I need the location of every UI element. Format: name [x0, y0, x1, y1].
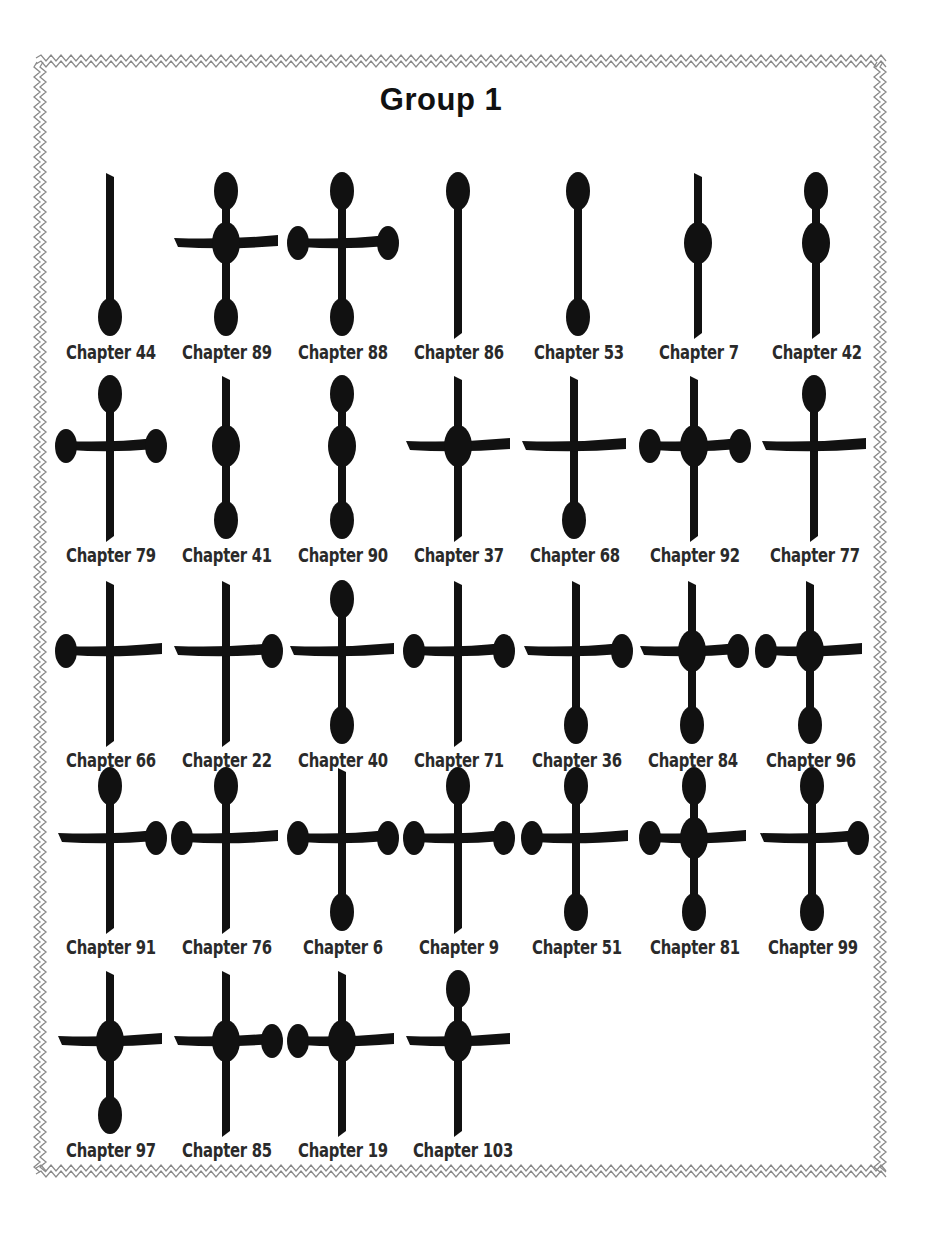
chapter-label: Chapter 88 [297, 341, 389, 363]
chapter-glyph-card: Chapter 51 [518, 760, 636, 970]
chapter-label: Chapter 44 [65, 341, 157, 363]
cross-glyph-icon [520, 165, 638, 345]
cross-glyph-icon [284, 165, 402, 345]
chapter-glyph-card: Chapter 66 [52, 573, 170, 783]
chapter-glyph-card: Chapter 68 [516, 368, 634, 578]
cross-glyph-icon [52, 760, 170, 940]
chapter-glyph-card: Chapter 81 [636, 760, 754, 970]
cross-glyph-icon [168, 760, 286, 940]
chapter-glyph-card: Chapter 42 [758, 165, 876, 375]
chapter-glyph-card: Chapter 19 [284, 963, 402, 1173]
chapter-label: Chapter 81 [649, 936, 741, 958]
cross-glyph-icon [284, 573, 402, 753]
cross-glyph-icon [754, 760, 872, 940]
chapter-glyph-card: Chapter 7 [640, 165, 758, 375]
chapter-label: Chapter 90 [297, 544, 389, 566]
chapter-glyph-card: Chapter 88 [284, 165, 402, 375]
chapter-label: Chapter 68 [529, 544, 621, 566]
chapter-label: Chapter 53 [533, 341, 625, 363]
cross-glyph-icon [400, 165, 518, 345]
cross-glyph-icon [168, 165, 286, 345]
chapter-label: Chapter 51 [531, 936, 623, 958]
cross-glyph-icon [52, 368, 170, 548]
cross-glyph-icon [400, 963, 518, 1143]
cross-glyph-icon [284, 963, 402, 1143]
chapter-glyph-card: Chapter 92 [636, 368, 754, 578]
cross-glyph-icon [516, 368, 634, 548]
cross-glyph-icon [52, 165, 170, 345]
chapter-label: Chapter 19 [297, 1139, 389, 1161]
chapter-label: Chapter 86 [413, 341, 505, 363]
cross-glyph-icon [400, 760, 518, 940]
cross-glyph-icon [518, 573, 636, 753]
chapter-glyph-card: Chapter 103 [400, 963, 518, 1173]
chapter-glyph-card: Chapter 97 [52, 963, 170, 1173]
chapter-glyph-card: Chapter 44 [52, 165, 170, 375]
cross-glyph-icon [636, 760, 754, 940]
chapter-label: Chapter 91 [65, 936, 157, 958]
cross-glyph-icon [752, 573, 870, 753]
chapter-glyph-card: Chapter 36 [518, 573, 636, 783]
chapter-label: Chapter 79 [65, 544, 157, 566]
chapter-glyph-card: Chapter 89 [168, 165, 286, 375]
cross-glyph-icon [168, 963, 286, 1143]
chapter-glyph-card: Chapter 77 [756, 368, 874, 578]
cross-glyph-icon [168, 573, 286, 753]
chapter-glyph-card: Chapter 6 [284, 760, 402, 970]
cross-glyph-icon [636, 368, 754, 548]
chapter-label: Chapter 77 [769, 544, 861, 566]
chapter-glyph-card: Chapter 90 [284, 368, 402, 578]
chapter-label: Chapter 92 [649, 544, 741, 566]
chapter-glyph-card: Chapter 76 [168, 760, 286, 970]
chapter-label: Chapter 41 [181, 544, 273, 566]
cross-glyph-icon [400, 368, 518, 548]
chapter-glyph-card: Chapter 91 [52, 760, 170, 970]
chapter-glyph-card: Chapter 9 [400, 760, 518, 970]
chapter-label: Chapter 6 [297, 936, 389, 958]
chapter-glyph-card: Chapter 53 [520, 165, 638, 375]
chapter-glyph-card: Chapter 79 [52, 368, 170, 578]
cross-glyph-icon [640, 165, 758, 345]
chapter-glyph-card: Chapter 99 [754, 760, 872, 970]
chapter-label: Chapter 76 [181, 936, 273, 958]
chapter-glyph-card: Chapter 84 [634, 573, 752, 783]
chapter-label: Chapter 42 [771, 341, 863, 363]
cross-glyph-icon [756, 368, 874, 548]
chapter-label: Chapter 103 [413, 1139, 505, 1161]
cross-glyph-icon [400, 573, 518, 753]
chapter-glyph-card: Chapter 96 [752, 573, 870, 783]
chapter-label: Chapter 89 [181, 341, 273, 363]
chapter-glyph-card: Chapter 41 [168, 368, 286, 578]
chapter-glyph-card: Chapter 40 [284, 573, 402, 783]
cross-glyph-icon [168, 368, 286, 548]
chapter-glyph-card: Chapter 85 [168, 963, 286, 1173]
chapter-glyph-card: Chapter 71 [400, 573, 518, 783]
cross-glyph-icon [284, 760, 402, 940]
chapter-glyph-card: Chapter 86 [400, 165, 518, 375]
cross-glyph-icon [284, 368, 402, 548]
cross-glyph-icon [52, 573, 170, 753]
cross-glyph-icon [52, 963, 170, 1143]
chapter-label: Chapter 99 [767, 936, 859, 958]
cross-glyph-icon [634, 573, 752, 753]
chapter-label: Chapter 85 [181, 1139, 273, 1161]
chapter-glyph-card: Chapter 37 [400, 368, 518, 578]
chapter-label: Chapter 37 [413, 544, 505, 566]
cross-glyph-icon [758, 165, 876, 345]
cross-glyph-icon [518, 760, 636, 940]
chapter-label: Chapter 97 [65, 1139, 157, 1161]
chapter-label: Chapter 9 [413, 936, 505, 958]
chapter-glyph-card: Chapter 22 [168, 573, 286, 783]
chapter-label: Chapter 7 [653, 341, 745, 363]
chapter-glyph-grid: Chapter 44Chapter 89Chapter 88Chapter 86… [0, 0, 926, 1235]
